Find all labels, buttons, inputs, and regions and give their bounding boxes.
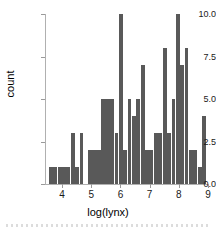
x-tick-label: 9 [198,190,216,200]
x-tick-label: 4 [52,190,72,200]
y-tick-mark [41,184,45,185]
histogram-bar [154,133,162,184]
histogram-bar [172,99,176,184]
y-tick-label: 2.5 [176,138,216,147]
x-tick-label: 6 [110,190,130,200]
histogram-bar [185,48,189,184]
x-tick-label: 8 [169,190,189,200]
histogram-bar [167,133,171,184]
histogram-bar [66,167,70,184]
y-tick-label: 10.0 [176,10,216,19]
histogram-figure: 0.02.55.07.510.0 456789 count log(lynx) [0,0,216,230]
y-tick-mark [41,99,45,100]
histogram-bar [193,150,197,184]
y-tick-mark [41,142,45,143]
scan-artifact [6,224,210,227]
histogram-bar [163,48,167,184]
histogram-bar [145,150,153,184]
x-tick-mark [208,184,209,188]
histogram-bar [132,116,136,184]
histogram-bar [49,167,57,184]
histogram-bar [75,167,79,184]
histogram-bar [101,99,114,184]
histogram-bar [128,99,132,184]
histogram-bar [123,150,127,184]
y-tick-label: 0.0 [176,180,216,189]
x-tick-mark [120,184,121,188]
x-axis-title: log(lynx) [0,206,216,218]
histogram-bar [58,167,66,184]
histogram-bar [136,99,140,184]
x-tick-mark [150,184,151,188]
y-tick-mark [41,14,45,15]
histogram-bar [71,133,75,184]
histogram-bar [180,65,184,184]
x-tick-label: 5 [81,190,101,200]
y-tick-mark [41,57,45,58]
histogram-bar [115,133,119,184]
x-tick-label: 7 [140,190,160,200]
x-tick-mark [179,184,180,188]
y-axis-title: count [4,54,16,114]
histogram-bar [202,116,206,184]
y-tick-label: 5.0 [176,95,216,104]
x-tick-mark [62,184,63,188]
histogram-bar [189,150,193,184]
histogram-bar [88,150,101,184]
y-tick-label: 7.5 [176,53,216,62]
histogram-bar [119,14,123,184]
histogram-bar [80,133,84,184]
histogram-bar [141,65,145,184]
x-tick-mark [91,184,92,188]
